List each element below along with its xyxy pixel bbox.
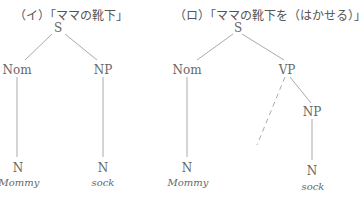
tree2-node-nom: Nom — [172, 63, 201, 77]
tree2-node-vp: VP — [279, 63, 296, 77]
tree2-node-s: S — [234, 21, 242, 35]
tree1-word-sock: sock — [92, 177, 115, 188]
tree1-title: （イ）「ママの靴下」 — [14, 6, 128, 23]
edge-s-nom-1 — [25, 34, 52, 60]
tree1-word-mommy: Mommy — [0, 177, 39, 188]
tree1-node-n-right: N — [98, 161, 109, 175]
tree2-node-np: NP — [303, 105, 322, 119]
edge-vp-np-2 — [290, 77, 311, 103]
edge-vp-dashed-2 — [257, 77, 285, 145]
edge-s-nom-2 — [197, 34, 233, 60]
tree1-node-nom: Nom — [2, 63, 31, 77]
edge-s-np-1 — [65, 34, 97, 60]
tree1-node-np: NP — [94, 63, 113, 77]
tree2-word-sock: sock — [302, 181, 325, 192]
tree2-word-mommy: Mommy — [168, 177, 209, 188]
tree1-node-s: S — [54, 21, 62, 35]
edge-s-vp-2 — [242, 34, 284, 60]
cut-off-caption-fragment — [182, 200, 200, 205]
tree2-title: （ロ）「ママの靴下を（はかせる）」 — [174, 6, 363, 23]
tree1-node-n-left: N — [13, 161, 24, 175]
tree2-node-n-right: N — [307, 164, 318, 178]
tree2-node-n-left: N — [182, 161, 193, 175]
